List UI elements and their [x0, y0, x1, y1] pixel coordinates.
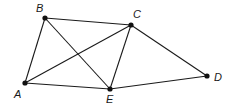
vertex-a [22, 80, 27, 85]
vertex-label-b: B [36, 2, 43, 14]
edge-be [45, 18, 110, 89]
graph-diagram: ABCDE [0, 0, 230, 110]
vertex-e [107, 86, 112, 91]
vertex-label-a: A [13, 88, 21, 100]
edge-bc [45, 18, 131, 25]
vertex-label-c: C [133, 8, 141, 20]
vertex-b [42, 15, 47, 20]
vertex-label-d: D [214, 71, 222, 83]
vertex-d [204, 73, 209, 78]
edges-group [25, 18, 207, 89]
vertex-c [128, 22, 133, 27]
edge-ae [25, 83, 110, 89]
edge-ed [110, 76, 207, 89]
edge-cd [131, 25, 207, 76]
vertex-label-e: E [106, 93, 114, 105]
vertices-group [22, 15, 209, 91]
